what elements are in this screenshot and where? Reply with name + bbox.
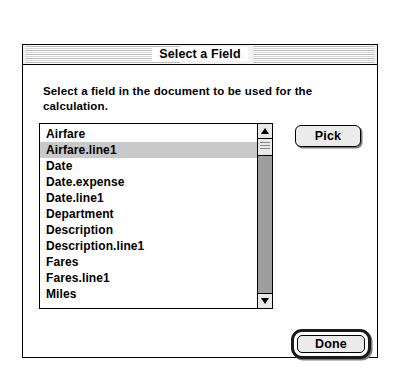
dialog-titlebar[interactable]: Select a Field — [23, 45, 377, 65]
pick-button[interactable]: Pick — [295, 125, 361, 147]
scroll-down-arrow-button[interactable] — [258, 293, 272, 308]
list-item[interactable]: Date.expense — [40, 174, 257, 190]
list-item[interactable]: Description — [40, 222, 257, 238]
select-a-field-dialog: Select a Field Select a field in the doc… — [22, 44, 378, 358]
triangle-up-icon — [261, 128, 269, 134]
instruction-text: Select a field in the document to be use… — [43, 84, 331, 114]
list-item[interactable]: Miles — [40, 286, 257, 302]
field-listbox[interactable]: AirfareAirfare.line1DateDate.expenseDate… — [39, 123, 273, 309]
list-item[interactable]: Date.line1 — [40, 190, 257, 206]
done-button[interactable]: Done — [297, 335, 365, 353]
dialog-body: Select a field in the document to be use… — [23, 65, 377, 357]
scrollbar-track[interactable] — [258, 139, 272, 293]
list-item[interactable]: Airfare.line1 — [40, 142, 257, 158]
scrollbar-thumb[interactable] — [258, 139, 272, 156]
list-item[interactable]: Department — [40, 206, 257, 222]
list-item[interactable]: Fares — [40, 254, 257, 270]
list-item[interactable]: Description.line1 — [40, 238, 257, 254]
scrollbar-thumb-grip — [260, 142, 270, 151]
list-item[interactable]: Fares.line1 — [40, 270, 257, 286]
list-item[interactable]: Airfare — [40, 126, 257, 142]
dialog-title-label: Select a Field — [152, 47, 247, 61]
field-list-scrollbar[interactable] — [257, 124, 272, 308]
dialog-title: Select a Field — [23, 47, 377, 62]
triangle-down-icon — [261, 298, 269, 304]
scroll-up-arrow-button[interactable] — [258, 124, 272, 139]
done-button-default-ring: Done — [291, 329, 371, 359]
list-item[interactable]: Date — [40, 158, 257, 174]
field-list[interactable]: AirfareAirfare.line1DateDate.expenseDate… — [40, 124, 257, 308]
